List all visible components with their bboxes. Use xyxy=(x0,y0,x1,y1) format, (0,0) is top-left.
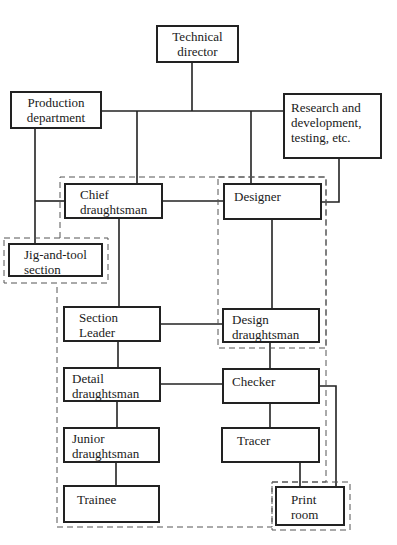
node-designer: Designer xyxy=(223,183,322,220)
node-research: Research and development, testing, etc. xyxy=(283,93,382,159)
node-design-draughtsman: Design draughtsman xyxy=(222,308,320,343)
node-label: Junior xyxy=(72,431,152,446)
node-label: Designer xyxy=(234,189,314,204)
node-section-leader: Section Leader xyxy=(63,306,161,342)
node-label: Detail xyxy=(72,371,153,386)
node-label: Tracer xyxy=(237,433,312,448)
node-label: Trainee xyxy=(77,492,152,507)
node-label: Section xyxy=(79,310,153,325)
node-production-department: Production department xyxy=(10,91,102,129)
node-junior-draughtsman: Junior draughtsman xyxy=(63,427,160,463)
node-label: draughtsman xyxy=(80,202,155,217)
node-checker: Checker xyxy=(222,368,320,404)
node-label: Technical xyxy=(164,29,231,44)
node-chief-draughtsman: Chief draughtsman xyxy=(64,183,163,219)
node-technical-director: Technical director xyxy=(156,25,239,63)
node-label: Chief xyxy=(80,187,155,202)
node-label: Jig-and-tool xyxy=(24,247,95,262)
node-label: department xyxy=(18,110,94,125)
node-label: Leader xyxy=(79,325,153,340)
node-label: draughtsman xyxy=(232,327,312,342)
node-jig-and-tool-section: Jig-and-tool section xyxy=(8,243,103,277)
node-label: Checker xyxy=(232,374,312,389)
node-label: Design xyxy=(232,312,312,327)
node-label: Print xyxy=(291,492,337,507)
node-label: draughtsman xyxy=(72,446,152,461)
node-trainee: Trainee xyxy=(63,485,160,523)
node-label: development, xyxy=(291,115,374,130)
node-label: Research and xyxy=(291,100,374,115)
node-print-room: Print room xyxy=(275,486,345,526)
node-label: Production xyxy=(18,95,94,110)
node-label: section xyxy=(24,262,95,277)
org-chart: Technical director Production department… xyxy=(0,0,397,545)
node-label: director xyxy=(164,44,231,59)
node-detail-draughtsman: Detail draughtsman xyxy=(63,367,161,402)
node-tracer: Tracer xyxy=(221,427,320,463)
node-label: testing, etc. xyxy=(291,130,374,145)
drawing-office-boundary xyxy=(57,177,326,527)
node-label: room xyxy=(291,507,337,522)
node-label: draughtsman xyxy=(72,386,153,401)
